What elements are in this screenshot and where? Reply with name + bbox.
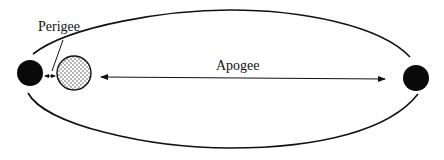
apogee-arrow [101,77,385,79]
right-body-disc [403,65,429,91]
apogee-label: Apogee [216,58,260,74]
orbiting-body-circle [57,56,91,90]
perigee-label: Perigee [38,19,80,35]
orbit-ellipse-lower [28,93,418,148]
left-body-disc [17,60,43,86]
orbit-ellipse [33,10,410,57]
